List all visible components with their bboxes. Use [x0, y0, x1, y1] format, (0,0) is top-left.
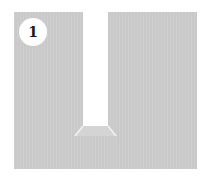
step-number: 1: [28, 24, 38, 40]
step-number-badge: 1: [19, 18, 47, 46]
